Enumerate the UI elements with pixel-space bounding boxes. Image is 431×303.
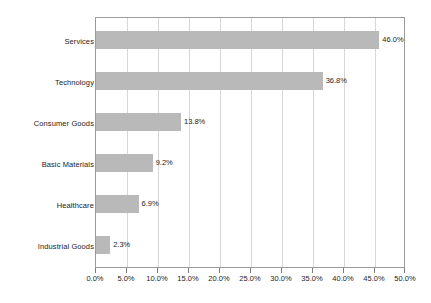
gridline-40 (344, 18, 345, 267)
tick-10 (157, 268, 158, 273)
tick-40 (343, 268, 344, 273)
bar-basic-materials (96, 154, 153, 172)
tick-35 (312, 268, 313, 273)
category-label-industrial-goods: Industrial Goods (38, 243, 94, 251)
bar-services (96, 31, 379, 49)
tick-50 (404, 268, 405, 273)
gridline-45 (375, 18, 376, 267)
x-tick-label-30: 30.0% (270, 275, 291, 283)
x-tick-label-5: 5.0% (117, 275, 134, 283)
gridline-5 (127, 18, 128, 267)
gridline-15 (189, 18, 190, 267)
x-tick-label-50: 50.0% (394, 275, 415, 283)
bar-consumer-goods (96, 113, 181, 131)
tick-0 (95, 268, 96, 273)
x-tick-label-20: 20.0% (208, 275, 229, 283)
value-label-services: 46.0% (382, 36, 403, 44)
tick-30 (281, 268, 282, 273)
gridline-30 (282, 18, 283, 267)
tick-20 (219, 268, 220, 273)
category-label-consumer-goods: Consumer Goods (34, 120, 94, 128)
gridline-25 (251, 18, 252, 267)
tick-45 (374, 268, 375, 273)
x-axis-ticks (95, 268, 405, 273)
x-tick-label-10: 10.0% (146, 275, 167, 283)
value-label-industrial-goods: 2.3% (113, 241, 130, 249)
x-tick-label-45: 45.0% (363, 275, 384, 283)
value-label-consumer-goods: 13.8% (184, 118, 205, 126)
category-label-healthcare: Healthcare (57, 202, 94, 210)
tick-5 (126, 268, 127, 273)
bar-industrial-goods (96, 236, 110, 254)
x-tick-label-15: 15.0% (177, 275, 198, 283)
value-label-basic-materials: 9.2% (156, 159, 173, 167)
gridline-35 (313, 18, 314, 267)
x-tick-label-35: 35.0% (301, 275, 322, 283)
category-label-basic-materials: Basic Materials (42, 161, 94, 169)
bar-technology (96, 72, 323, 90)
gridline-10 (158, 18, 159, 267)
gridline-20 (220, 18, 221, 267)
category-label-technology: Technology (55, 79, 94, 87)
value-label-healthcare: 6.9% (142, 200, 159, 208)
plot-area: 46.0% 36.8% 13.8% 9.2% 6.9% 2.3% (95, 17, 405, 268)
value-label-technology: 36.8% (326, 77, 347, 85)
x-tick-label-40: 40.0% (332, 275, 353, 283)
category-label-services: Services (64, 38, 94, 46)
bar-healthcare (96, 195, 139, 213)
x-tick-label-25: 25.0% (239, 275, 260, 283)
tick-15 (188, 268, 189, 273)
x-tick-label-0: 0.0% (86, 275, 103, 283)
tick-25 (250, 268, 251, 273)
bar-chart: Services Technology Consumer Goods Basic… (0, 0, 431, 303)
